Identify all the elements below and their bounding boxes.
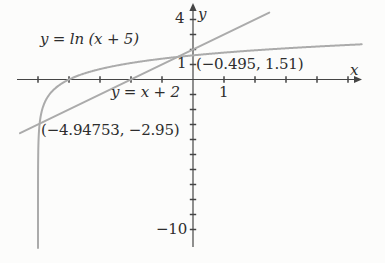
intersection-2-label: (−4.94753, −2.95) — [41, 122, 179, 139]
log-equation-label: y = ln (x + 5) — [40, 31, 139, 48]
y-tick-1-label: 1 — [177, 55, 186, 72]
graph-figure: y = ln (x + 5) y = x + 2 (−0.495, 1.51) … — [0, 0, 385, 263]
y-tick-neg10-label: −10 — [156, 221, 187, 238]
y-axis-letter: y — [198, 6, 206, 23]
y-tick-4-label: 4 — [175, 10, 184, 27]
x-tick-1-label: 1 — [219, 84, 228, 101]
intersection-1-label: (−0.495, 1.51) — [196, 56, 303, 73]
line-equation-label: y = x + 2 — [111, 84, 180, 101]
x-axis-letter: x — [350, 62, 358, 79]
